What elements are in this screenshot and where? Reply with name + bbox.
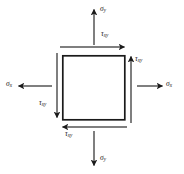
- sigma-x-right-label: σx: [166, 80, 172, 88]
- sigma-x-right-subscript: x: [170, 82, 172, 88]
- sigma-y-top-label: σy: [100, 5, 106, 13]
- stress-element-drawing: [0, 0, 184, 174]
- tau-xy-top-subscript: xy: [104, 32, 109, 38]
- sigma-y-bottom-label: σy: [100, 154, 106, 162]
- stress-square: [63, 56, 125, 120]
- sigma-y-top-subscript: y: [104, 7, 106, 13]
- tau-xy-right-subscript: xy: [138, 57, 143, 63]
- tau-xy-left-subscript: xy: [42, 101, 47, 107]
- sigma-x-left-subscript: x: [10, 82, 12, 88]
- tau-xy-right-label: τxy: [135, 55, 142, 63]
- tau-xy-left-label: τxy: [39, 99, 46, 107]
- tau-xy-bottom-subscript: xy: [68, 132, 73, 138]
- sigma-y-bottom-subscript: y: [104, 156, 106, 162]
- tau-xy-bottom-label: τxy: [65, 130, 72, 138]
- plane-stress-element-figure: σy σy σx σx τxy τxy τxy τxy: [0, 0, 184, 174]
- tau-xy-top-label: τxy: [101, 30, 108, 38]
- sigma-x-left-label: σx: [6, 80, 12, 88]
